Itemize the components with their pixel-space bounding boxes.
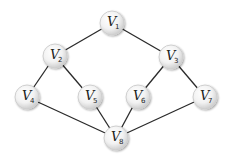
node-v8: V8 — [104, 126, 128, 150]
node-v2: V2 — [43, 44, 67, 68]
node-subscript: 8 — [119, 138, 123, 146]
nodes-layer: V1V2V3V4V5V6V7V8 — [15, 11, 217, 150]
node-subscript: 1 — [115, 23, 119, 31]
node-v6: V6 — [126, 85, 150, 109]
node-subscript: 4 — [30, 97, 35, 105]
node-v5: V5 — [78, 85, 102, 109]
graph-diagram: V1V2V3V4V5V6V7V8 — [0, 0, 228, 164]
node-subscript: 2 — [58, 56, 62, 64]
edges-layer — [27, 23, 205, 138]
node-v1: V1 — [100, 11, 124, 35]
node-subscript: 5 — [93, 97, 97, 105]
node-subscript: 6 — [141, 97, 146, 105]
node-v3: V3 — [159, 45, 183, 69]
node-subscript: 7 — [208, 97, 212, 105]
node-v4: V4 — [15, 85, 39, 109]
node-v7: V7 — [193, 85, 217, 109]
node-subscript: 3 — [174, 57, 178, 65]
